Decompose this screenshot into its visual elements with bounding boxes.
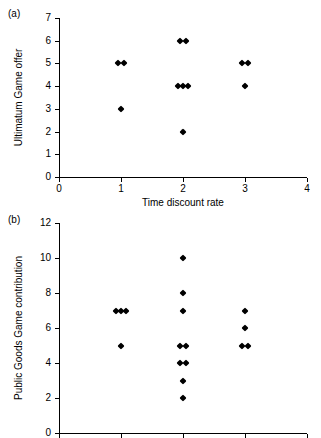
y-ticklabel-b-5: 10 xyxy=(27,253,51,263)
y-ticklabel-b-0: 0 xyxy=(27,428,51,438)
y-ticklabel-a-2: 2 xyxy=(27,127,51,137)
x-ticklabel-a-4: 4 xyxy=(292,184,321,194)
x-tick-a-4 xyxy=(307,178,308,182)
y-ticklabel-b-6: 12 xyxy=(27,218,51,228)
y-ticklabel-a-6: 6 xyxy=(27,36,51,46)
y-tick-a-6 xyxy=(55,41,59,42)
x-tick-b-0 xyxy=(59,434,60,438)
y-tick-b-4 xyxy=(55,293,59,294)
y-ticklabel-a-3: 3 xyxy=(27,104,51,114)
data-point xyxy=(183,342,190,349)
data-point xyxy=(117,105,124,112)
y-tick-b-2 xyxy=(55,363,59,364)
x-tick-b-1 xyxy=(121,434,122,438)
data-point xyxy=(179,289,186,296)
x-tick-a-0 xyxy=(59,178,60,182)
data-point xyxy=(183,37,190,44)
plot-area-a: 0123456701234Time discount rateUltimatum… xyxy=(59,18,307,177)
y-ticklabel-b-4: 8 xyxy=(27,288,51,298)
x-tick-b-3 xyxy=(245,434,246,438)
y-tick-a-7 xyxy=(55,18,59,19)
data-point xyxy=(179,307,186,314)
y-tick-a-2 xyxy=(55,132,59,133)
data-point xyxy=(179,394,186,401)
x-tick-a-2 xyxy=(183,178,184,182)
y-tick-b-3 xyxy=(55,328,59,329)
x-tick-b-2 xyxy=(183,434,184,438)
data-point xyxy=(241,83,248,90)
y-tick-a-5 xyxy=(55,63,59,64)
data-point xyxy=(117,342,124,349)
x-tick-a-3 xyxy=(245,178,246,182)
data-point xyxy=(185,83,192,90)
panel-a: (a) 0123456701234Time discount rateUltim… xyxy=(0,0,321,205)
x-ticklabel-a-2: 2 xyxy=(168,184,198,194)
data-point xyxy=(183,359,190,366)
y-axis-title-b: Public Goods Game contribution xyxy=(13,223,24,433)
data-point xyxy=(121,60,128,67)
y-tick-a-1 xyxy=(55,154,59,155)
data-point xyxy=(245,60,252,67)
x-ticklabel-a-1: 1 xyxy=(106,184,136,194)
y-axis-line-a xyxy=(59,18,60,177)
y-ticklabel-a-5: 5 xyxy=(27,58,51,68)
y-ticklabel-a-4: 4 xyxy=(27,81,51,91)
x-ticklabel-a-3: 3 xyxy=(230,184,260,194)
data-point xyxy=(245,342,252,349)
data-point xyxy=(179,377,186,384)
y-tick-b-6 xyxy=(55,223,59,224)
data-point xyxy=(123,307,130,314)
y-ticklabel-a-0: 0 xyxy=(27,172,51,182)
x-tick-b-4 xyxy=(307,434,308,438)
y-axis-title-a: Ultimatum Game offer xyxy=(13,18,24,177)
y-ticklabel-a-1: 1 xyxy=(27,149,51,159)
x-tick-a-1 xyxy=(121,178,122,182)
y-ticklabel-b-2: 4 xyxy=(27,358,51,368)
y-tick-b-5 xyxy=(55,258,59,259)
y-tick-a-4 xyxy=(55,86,59,87)
y-ticklabel-b-3: 6 xyxy=(27,323,51,333)
data-point xyxy=(179,254,186,261)
data-point xyxy=(241,324,248,331)
y-ticklabel-a-7: 7 xyxy=(27,13,51,23)
y-tick-a-3 xyxy=(55,109,59,110)
y-axis-line-b xyxy=(59,223,60,433)
data-point xyxy=(241,307,248,314)
panel-b: (b) 024681012Public Goods Game contribut… xyxy=(0,205,321,392)
y-ticklabel-b-1: 2 xyxy=(27,393,51,403)
data-point xyxy=(179,128,186,135)
x-ticklabel-a-0: 0 xyxy=(44,184,74,194)
y-tick-b-1 xyxy=(55,398,59,399)
plot-area-b: 024681012Public Goods Game contribution xyxy=(59,223,307,433)
